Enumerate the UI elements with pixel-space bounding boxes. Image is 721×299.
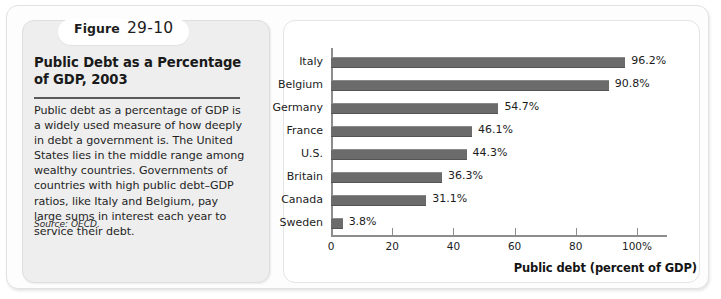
bar-value-label: 54.7%: [504, 100, 539, 113]
bar-canada: [331, 195, 426, 206]
bar-france: [331, 126, 472, 137]
bar-value-label: 96.2%: [631, 54, 666, 67]
bar-sweden: [331, 218, 343, 229]
bar-row: 96.2%Italy: [331, 51, 651, 74]
x-tick-label: 40: [447, 240, 460, 252]
bar-row: 54.7%Germany: [331, 97, 651, 120]
plot-area: 96.2%Italy90.8%Belgium54.7%Germany46.1%F…: [331, 48, 641, 238]
bar-value-label: 90.8%: [615, 77, 650, 90]
x-tick: [515, 228, 516, 235]
figure-root: Figure 29-10 Public Debt as a Percentage…: [0, 0, 721, 299]
bar-belgium: [331, 80, 609, 91]
figure-number-badge: Figure 29-10: [58, 19, 189, 45]
figure-source: Source: OECD.: [34, 219, 100, 229]
x-tick: [453, 228, 454, 235]
x-tick-label: 0: [328, 240, 335, 252]
bar-value-label: 36.3%: [448, 169, 483, 182]
bar-row: 31.1%Canada: [331, 189, 651, 212]
bar-row: 46.1%France: [331, 120, 651, 143]
bar-italy: [331, 57, 625, 68]
bar-us: [331, 149, 467, 160]
figure-badge-word: Figure: [74, 21, 120, 36]
bar-value-label: 3.8%: [349, 215, 377, 228]
category-label-france: France: [233, 124, 323, 137]
title-divider: [34, 97, 240, 99]
x-tick-label: 100%: [622, 240, 652, 252]
category-label-canada: Canada: [233, 193, 323, 206]
category-label-britain: Britain: [233, 170, 323, 183]
bar-britain: [331, 172, 442, 183]
x-axis-title: Public debt (percent of GDP): [514, 261, 697, 275]
bar-value-label: 46.1%: [478, 123, 513, 136]
x-tick: [637, 228, 638, 235]
x-tick: [576, 228, 577, 235]
category-label-italy: Italy: [233, 55, 323, 68]
x-tick-label: 20: [386, 240, 399, 252]
x-tick-label: 60: [508, 240, 521, 252]
figure-title: Public Debt as a Percentage of GDP, 2003: [34, 55, 260, 88]
figure-badge-number: 29-10: [127, 19, 174, 37]
bar-value-label: 44.3%: [473, 146, 508, 159]
x-tick: [392, 228, 393, 235]
bar-value-label: 31.1%: [432, 192, 467, 205]
bar-row: 90.8%Belgium: [331, 74, 651, 97]
bar-germany: [331, 103, 498, 114]
bar-row: 3.8%Sweden: [331, 212, 651, 235]
x-tick-label: 80: [569, 240, 582, 252]
bar-row: 36.3%Britain: [331, 166, 651, 189]
category-label-us: U.S.: [233, 147, 323, 160]
category-label-belgium: Belgium: [233, 78, 323, 91]
category-label-sweden: Sweden: [233, 216, 323, 229]
bar-row: 44.3%U.S.: [331, 143, 651, 166]
category-label-germany: Germany: [233, 101, 323, 114]
